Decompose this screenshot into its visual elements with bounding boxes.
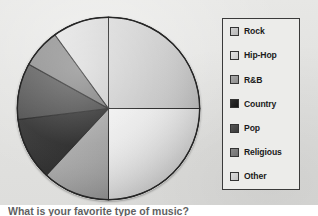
- legend-item-religious[interactable]: Religious: [223, 145, 299, 160]
- legend-label-hip-hop: Hip-Hop: [244, 51, 277, 60]
- legend-item-country[interactable]: Country: [223, 96, 299, 111]
- legend-swatch-pop: [230, 124, 239, 133]
- legend-label-rnb: R&B: [244, 76, 262, 85]
- legend-label-pop: Pop: [244, 124, 260, 133]
- pie-svg: [16, 16, 201, 201]
- legend-swatch-rock: [230, 27, 239, 36]
- legend-item-rock[interactable]: Rock: [223, 24, 299, 39]
- legend-label-religious: Religious: [244, 148, 282, 157]
- figure-screenshot: Rock Hip-Hop R&B Country Pop Religious: [0, 0, 318, 216]
- legend-label-other: Other: [244, 172, 266, 181]
- legend-label-rock: Rock: [244, 27, 265, 36]
- legend-swatch-hip-hop: [230, 51, 239, 60]
- legend-item-other[interactable]: Other: [223, 169, 299, 184]
- legend-swatch-other: [230, 172, 239, 181]
- legend-item-rnb[interactable]: R&B: [223, 72, 299, 87]
- legend-item-pop[interactable]: Pop: [223, 121, 299, 136]
- figure-caption: What is your favorite type of music?: [8, 205, 308, 216]
- legend-item-hip-hop[interactable]: Hip-Hop: [223, 48, 299, 63]
- legend-label-country: Country: [244, 100, 276, 109]
- legend-swatch-religious: [230, 148, 239, 157]
- figure-caption-text: What is your favorite type of music?: [8, 205, 308, 216]
- pie-chart: [16, 16, 201, 201]
- chart-legend: Rock Hip-Hop R&B Country Pop Religious: [222, 18, 300, 190]
- legend-swatch-rnb: [230, 75, 239, 84]
- legend-swatch-country: [230, 99, 239, 108]
- chart-panel: Rock Hip-Hop R&B Country Pop Religious: [0, 0, 318, 205]
- pie-body: [16, 16, 201, 201]
